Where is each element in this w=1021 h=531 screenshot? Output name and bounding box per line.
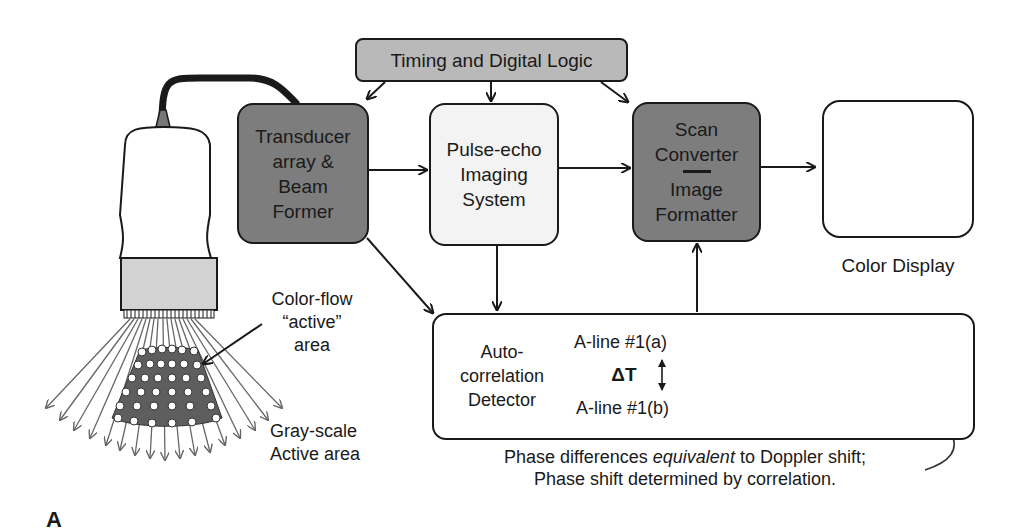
gray-scale-label: Gray-scale Active area [270, 420, 380, 466]
transducer-elements [124, 310, 214, 318]
auto-line-2: correlation [443, 364, 561, 388]
gray-scale-line-1: Gray-scale [270, 420, 380, 443]
pulse-echo-line-3: System [462, 187, 525, 212]
transducer-line-1: Transducer [255, 124, 350, 149]
formatter-line-1: Image [670, 177, 723, 202]
probe-head [121, 258, 217, 310]
transducer-line-2: array & [272, 149, 333, 174]
figure-label: A [44, 508, 64, 531]
color-display-frame [822, 100, 974, 238]
color-flow-active-area [112, 347, 222, 426]
caption-pre: Phase differences [504, 447, 653, 467]
timing-digital-logic-block: Timing and Digital Logic [355, 38, 628, 82]
color-flow-line-1: Color-flow [262, 288, 362, 311]
scan-converter-block: Scan Converter Image Formatter [632, 102, 761, 242]
aline-b-label: A-line #1(b) [576, 397, 696, 420]
transducer-line-3: Beam [278, 174, 328, 199]
pulse-echo-imaging-block: Pulse-echo Imaging System [429, 103, 559, 246]
timing-label: Timing and Digital Logic [390, 48, 592, 73]
caption-line-1: Phase differences equivalent to Doppler … [440, 446, 930, 468]
cable-strain-relief [156, 110, 170, 127]
pulse-echo-line-2: Imaging [460, 162, 528, 187]
transducer-beam-former-block: Transducer array & Beam Former [237, 103, 369, 244]
caption-post: to Doppler shift; [735, 447, 866, 467]
caption-line-2: Phase shift determined by correlation. [440, 468, 930, 490]
color-flow-line-2: “active” [262, 311, 362, 334]
caption-emphasis: equivalent [653, 447, 735, 467]
scan-line-1: Scan [675, 117, 718, 142]
auto-line-1: Auto- [443, 340, 561, 364]
gray-scale-line-2: Active area [270, 443, 380, 466]
formatter-line-2: Formatter [655, 202, 737, 227]
probe-body [120, 127, 211, 258]
phase-caption: Phase differences equivalent to Doppler … [440, 446, 930, 490]
color-flow-line-3: area [262, 334, 362, 357]
color-flow-label: Color-flow “active” area [262, 288, 362, 357]
auto-line-3: Detector [443, 388, 561, 412]
scan-line-2: Converter [655, 142, 738, 167]
delta-t-label: ΔT [604, 363, 644, 386]
autocorrelation-label: Auto- correlation Detector [443, 340, 561, 412]
transducer-line-4: Former [272, 199, 333, 224]
pulse-echo-line-1: Pulse-echo [446, 137, 541, 162]
color-display-caption: Color Display [822, 254, 974, 277]
aline-a-label: A-line #1(a) [574, 331, 694, 354]
separator-bar [683, 170, 711, 173]
